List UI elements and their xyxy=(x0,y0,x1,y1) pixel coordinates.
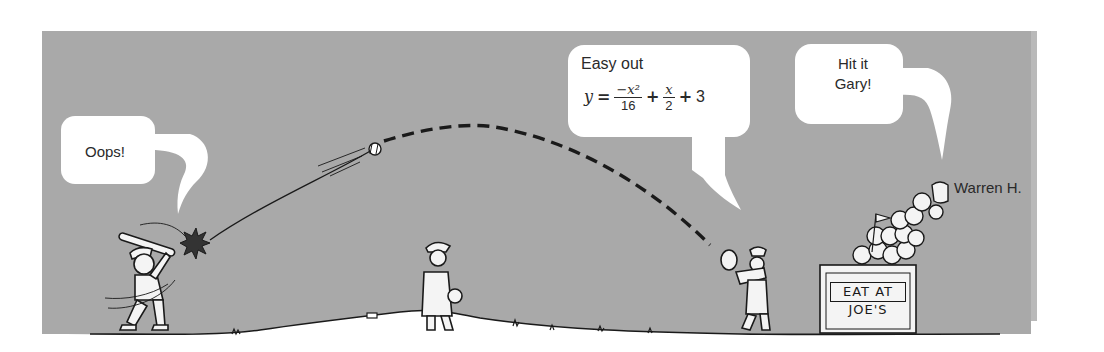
impact-burst-icon xyxy=(180,228,210,259)
warren-label: Warren H. xyxy=(954,178,1022,198)
catcher-speech-line1: Easy out xyxy=(581,54,643,74)
crowd xyxy=(853,182,948,264)
fraction-2: x 2 xyxy=(663,82,674,113)
fraction-1: −x² 16 xyxy=(614,82,641,113)
fraction-1-denominator: 16 xyxy=(621,98,635,113)
crowd-speech-line2: Gary! xyxy=(828,74,878,94)
fraction-2-numerator: x xyxy=(663,82,674,98)
catcher-figure xyxy=(721,247,770,330)
baseball-icon xyxy=(369,143,381,155)
batter-figure xyxy=(118,232,175,330)
joes-sign: EAT AT JOE'S xyxy=(830,282,906,318)
home-plate xyxy=(367,313,377,318)
plus-1: + xyxy=(646,87,659,107)
equation-constant: 3 xyxy=(696,87,705,107)
equation-lhs: y xyxy=(584,87,593,107)
fraction-2-denominator: 2 xyxy=(665,98,672,113)
batter-speech-text: Oops! xyxy=(85,142,125,162)
crowd-speech-text: Hit it Gary! xyxy=(828,54,878,94)
crowd-speech-line1: Hit it xyxy=(828,54,878,74)
sign-line2: JOE'S xyxy=(830,302,906,318)
cartoon-scene xyxy=(0,0,1104,352)
catcher-equation: y = −x² 16 + x 2 + 3 xyxy=(584,75,705,119)
trajectory-dashed xyxy=(384,125,710,245)
fraction-1-numerator: −x² xyxy=(614,82,641,98)
motion-lines xyxy=(318,148,365,176)
equation-equals: = xyxy=(597,87,610,107)
speech-bubble-batter xyxy=(61,116,208,214)
plus-2: + xyxy=(679,87,692,107)
trajectory-solid xyxy=(210,150,372,240)
sign-line1: EAT AT xyxy=(830,282,906,302)
